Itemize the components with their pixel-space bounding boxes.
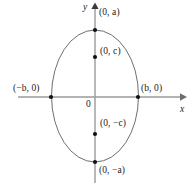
- point-upper-focus: [93, 55, 97, 59]
- label-upper-focus: (0, c): [100, 47, 121, 57]
- ellipse-figure: y x 0 (0, a) (0, c) (−b, 0) (b, 0) (0, −…: [0, 0, 194, 187]
- label-left-covertex: (−b, 0): [13, 84, 40, 94]
- point-bottom-vertex: [93, 160, 97, 164]
- point-lower-focus: [93, 132, 97, 136]
- point-right-covertex: [136, 95, 140, 99]
- point-left-covertex: [49, 95, 53, 99]
- y-axis-label: y: [83, 3, 87, 13]
- x-axis-label: x: [180, 105, 184, 115]
- label-lower-focus: (0, −c): [100, 119, 126, 129]
- y-axis-arrowhead: [91, 3, 98, 10]
- ellipse-diagram-canvas: [0, 0, 194, 187]
- origin-label: 0: [86, 100, 91, 110]
- label-top-vertex: (0, a): [99, 8, 120, 18]
- label-right-covertex: (b, 0): [141, 84, 162, 94]
- label-bottom-vertex: (0, −a): [99, 166, 125, 176]
- point-top-vertex: [93, 28, 97, 32]
- x-axis-arrowhead: [180, 93, 187, 101]
